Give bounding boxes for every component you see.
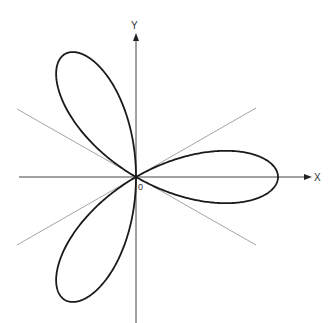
x-axis-arrow-icon	[304, 174, 312, 180]
y-axis-arrow-icon	[133, 33, 139, 41]
origin-label: 0	[138, 182, 143, 192]
x-axis-label: X	[314, 172, 321, 183]
rose-curve-diagram: X Y 0	[0, 0, 333, 323]
y-axis-label: Y	[131, 20, 138, 31]
